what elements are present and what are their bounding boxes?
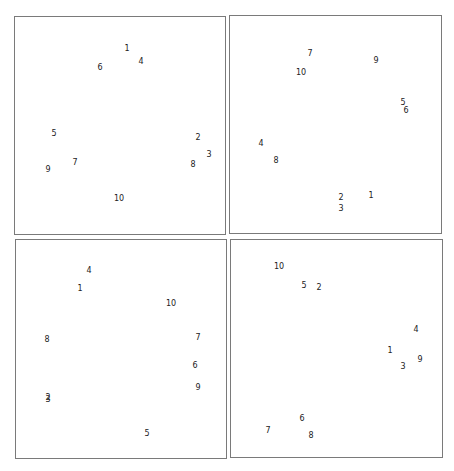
point-label-5: 5 (301, 282, 306, 290)
point-label-1: 1 (368, 192, 373, 200)
point-label-10: 10 (166, 300, 176, 308)
point-label-3: 3 (206, 151, 211, 159)
point-label-8: 8 (44, 336, 49, 344)
point-label-3: 3 (338, 205, 343, 213)
point-label-7: 7 (195, 334, 200, 342)
point-label-6: 6 (299, 415, 304, 423)
point-label-4: 4 (413, 326, 418, 334)
point-label-6: 6 (192, 362, 197, 370)
point-label-7: 7 (307, 50, 312, 58)
point-label-8: 8 (190, 161, 195, 169)
point-label-5: 5 (144, 430, 149, 438)
scatter-panel-bottom-right (230, 239, 443, 458)
scatter-panel-top-right (229, 15, 442, 234)
point-label-9: 9 (45, 166, 50, 174)
point-label-1: 1 (387, 347, 392, 355)
point-label-10: 10 (114, 195, 124, 203)
point-label-2: 2 (195, 134, 200, 142)
point-label-7: 7 (265, 427, 270, 435)
point-label-3: 3 (400, 363, 405, 371)
point-label-9: 9 (373, 57, 378, 65)
point-label-6: 6 (403, 107, 408, 115)
point-label-9: 9 (417, 356, 422, 364)
point-label-3: 3 (45, 396, 50, 404)
point-label-2: 2 (338, 194, 343, 202)
point-label-1: 1 (124, 45, 129, 53)
point-label-2: 2 (316, 284, 321, 292)
point-label-10: 10 (296, 69, 306, 77)
point-label-8: 8 (273, 157, 278, 165)
point-label-4: 4 (86, 267, 91, 275)
point-label-5: 5 (51, 130, 56, 138)
scatter-panel-bottom-left (15, 239, 227, 459)
point-label-4: 4 (258, 140, 263, 148)
point-label-7: 7 (72, 159, 77, 167)
point-label-10: 10 (274, 263, 284, 271)
point-label-4: 4 (138, 58, 143, 66)
point-label-8: 8 (308, 432, 313, 440)
point-label-1: 1 (77, 285, 82, 293)
point-label-6: 6 (97, 64, 102, 72)
point-label-9: 9 (195, 384, 200, 392)
